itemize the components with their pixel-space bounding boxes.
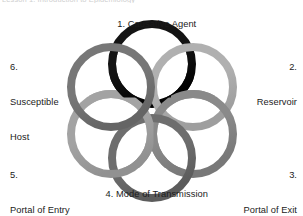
label-susceptible-host-text-line2: Host <box>10 132 59 144</box>
label-causative-agent: 1. Causative Agent <box>0 7 303 42</box>
label-mode-of-transmission-text: Mode of Transmission <box>116 189 208 199</box>
label-reservoir: 2. Reservoir <box>257 39 297 132</box>
label-mode-of-transmission: 4. Mode of Transmission <box>0 177 303 212</box>
chain-of-infection-diagram: Lesson 1: Introduction to Epidemiology 1… <box>0 0 303 216</box>
label-reservoir-number: 2. <box>257 62 297 74</box>
label-susceptible-host-number: 6. <box>10 62 59 74</box>
label-susceptible-host-text-line1: Susceptible <box>10 97 59 109</box>
label-causative-agent-text: Causative Agent <box>128 19 196 29</box>
label-causative-agent-number: 1. <box>117 19 125 29</box>
label-reservoir-text: Reservoir <box>257 97 297 109</box>
